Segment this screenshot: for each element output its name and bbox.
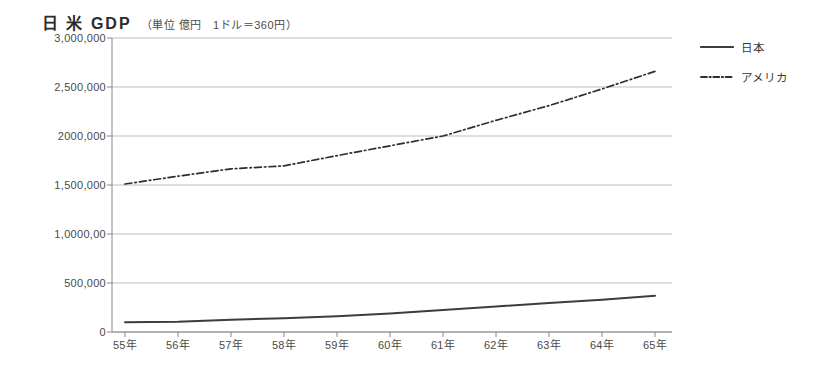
x-axis-tick-label: 63年 [519,336,579,352]
x-axis-tick-label: 59年 [307,336,367,352]
x-axis-tick-label: 58年 [254,336,314,352]
x-axis-tick-label: 62年 [466,336,526,352]
legend-item-1[interactable]: 日本 [700,36,815,58]
x-axis-tick-label: 65年 [625,336,685,352]
legend-label: アメリカ [741,69,788,85]
x-axis-labels: 55年56年57年58年59年60年61年62年63年64年65年 [0,0,819,372]
x-axis-tick-label: 61年 [413,336,473,352]
solid-line-icon [700,41,734,53]
plot-area: 3,000,0002,500,0002000,0001,500,0001,000… [0,0,819,372]
x-axis-tick-label: 56年 [148,336,208,352]
dash-dot-line-icon [700,71,734,83]
legend: 日本アメリカ [700,36,815,96]
x-axis-tick-label: 55年 [95,336,155,352]
chart-page: 日 米 GDP （単位 億円 1ドル＝360円） 3,000,0002,500,… [0,0,819,372]
legend-item-2[interactable]: アメリカ [700,66,815,88]
x-axis-tick-label: 64年 [572,336,632,352]
x-axis-tick-label: 57年 [201,336,261,352]
legend-label: 日本 [741,39,765,55]
x-axis-tick-label: 60年 [360,336,420,352]
